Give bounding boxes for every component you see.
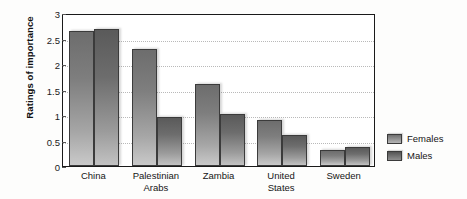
y-axis-title: Ratings of importance <box>24 3 35 133</box>
x-axis-labels: ChinaPalestinianArabsZambiaUnitedStatesS… <box>62 170 375 199</box>
x-axis-label-line: Palestinian <box>125 170 188 182</box>
y-tickmark <box>62 142 66 143</box>
x-axis-label: UnitedStates <box>250 170 313 193</box>
legend-item-males: Males <box>387 150 443 161</box>
y-tick-label: 2 <box>55 60 60 71</box>
x-axis-label-line: Arabs <box>125 182 188 194</box>
x-axis-label-line: Zambia <box>187 170 250 182</box>
y-tick-label: 3 <box>55 9 60 20</box>
y-tick-label: 1 <box>55 111 60 122</box>
chart-figure: Ratings of importance 00.511.522.53 Chin… <box>0 0 467 199</box>
y-tickmark <box>62 167 66 168</box>
x-axis-label-line: United <box>250 170 313 182</box>
legend: Females Males <box>387 133 443 167</box>
legend-swatch-males-icon <box>387 151 402 161</box>
y-tickmark <box>62 14 66 15</box>
y-axis-tick-labels: 00.511.522.53 <box>36 14 60 167</box>
x-axis-label-line: Sweden <box>312 170 375 182</box>
y-tickmark <box>62 91 66 92</box>
x-axis-label: China <box>62 170 125 182</box>
y-tick-label: 2.5 <box>47 34 60 45</box>
y-tickmark <box>62 40 66 41</box>
y-tick-label: 0.5 <box>47 136 60 147</box>
x-axis-label: PalestinianArabs <box>125 170 188 193</box>
legend-item-females: Females <box>387 133 443 144</box>
y-tickmark <box>62 116 66 117</box>
y-tick-label: 1.5 <box>47 85 60 96</box>
legend-label-males: Males <box>407 150 432 161</box>
x-axis-label: Sweden <box>312 170 375 182</box>
x-axis-label: Zambia <box>187 170 250 182</box>
y-tick-label: 0 <box>55 162 60 173</box>
legend-label-females: Females <box>407 133 443 144</box>
legend-swatch-females-icon <box>387 134 402 144</box>
y-tickmark <box>62 65 66 66</box>
y-axis-tickmarks <box>62 14 375 167</box>
x-axis-label-line: China <box>62 170 125 182</box>
x-axis-label-line: States <box>250 182 313 194</box>
